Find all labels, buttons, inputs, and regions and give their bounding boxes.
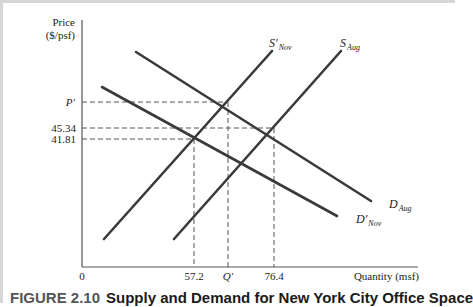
supply-nov-curve: [104, 51, 272, 239]
y-tick-p-prime: P′: [65, 96, 76, 108]
x-tick-76-4: 76.4: [264, 270, 284, 282]
y-axis-label-line2: ($/psf): [46, 29, 76, 42]
figure-caption: FIGURE 2.10Supply and Demand for New Yor…: [10, 289, 473, 307]
x-axis-label: Quantity (msf): [354, 270, 419, 283]
supply-aug-curve: [174, 51, 341, 239]
guide-lines: [82, 102, 274, 267]
supply-nov-label: S′Nov: [269, 36, 292, 52]
demand-aug-curve: [136, 52, 371, 201]
x-tick-57-2: 57.2: [184, 270, 203, 282]
demand-aug-label: DAug: [388, 197, 412, 213]
supply-aug-label: SAug: [340, 36, 360, 52]
figure-title: Supply and Demand for New York City Offi…: [106, 289, 473, 306]
origin-label: 0: [79, 270, 85, 282]
figure-number: FIGURE 2.10: [10, 289, 100, 306]
y-axis-label-line1: Price: [52, 16, 75, 28]
y-tick-41-81: 41.81: [51, 133, 76, 145]
demand-nov-label: D′Nov: [355, 212, 382, 228]
x-tick-q-prime: Q′: [223, 270, 234, 282]
